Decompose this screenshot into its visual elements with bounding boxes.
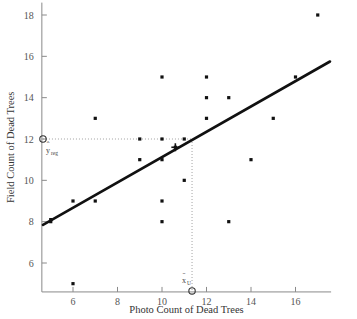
data-point [205, 96, 208, 99]
y-tick-label: 10 [24, 175, 34, 186]
data-point [249, 158, 252, 161]
y-hat-subscript: reg [51, 150, 58, 156]
data-point [294, 75, 297, 78]
scatter-plot-figure: 681012141618 6810121416 Photo Count of D… [0, 0, 357, 319]
data-point [205, 117, 208, 120]
guide-lines-group [43, 139, 192, 291]
data-point [183, 137, 186, 140]
data-point [94, 117, 97, 120]
x-bar-sub-marker [189, 288, 195, 294]
data-point [160, 220, 163, 223]
data-point [71, 282, 74, 285]
x-tick-label: 14 [246, 296, 256, 307]
y-tick-label: 12 [24, 134, 34, 145]
x-axis-title: Photo Count of Dead Trees [129, 304, 243, 315]
y-hat-reg-annotation: ˆ y reg [46, 141, 58, 157]
data-point [160, 137, 163, 140]
data-point [94, 199, 97, 202]
x-tick-label: 16 [291, 296, 301, 307]
data-point [49, 218, 52, 221]
x-bar-annotation: ̄ x U [182, 273, 191, 286]
axes-group [42, 3, 331, 292]
data-point [272, 117, 275, 120]
y-tick-label: 14 [24, 92, 34, 103]
data-point [183, 179, 186, 182]
plot-canvas: 681012141618 6810121416 Photo Count of D… [0, 0, 357, 319]
x-bar-accent: ̄ [182, 273, 186, 274]
y-axis-ticks: 681012141618 [24, 10, 47, 269]
y-axis-title: Field Count of Dead Trees [5, 92, 16, 203]
x-bar-subscript: U [187, 280, 191, 286]
x-tick-label: 6 [71, 296, 76, 307]
y-tick-label: 8 [29, 216, 34, 227]
data-point [71, 199, 74, 202]
data-point [138, 158, 141, 161]
y-hat-letter: y [46, 146, 50, 155]
data-point [205, 75, 208, 78]
regression-fit-line [43, 62, 330, 225]
data-point [227, 96, 230, 99]
x-tick-label: 8 [115, 296, 120, 307]
regression-line-group [43, 62, 330, 225]
y-tick-label: 6 [29, 258, 34, 269]
annotation-markers-group [40, 136, 195, 294]
data-point [160, 158, 163, 161]
data-point [316, 13, 319, 16]
data-point [160, 75, 163, 78]
data-point [227, 220, 230, 223]
x-bar-letter: x [182, 276, 186, 285]
data-point [138, 137, 141, 140]
y-tick-label: 16 [24, 51, 34, 62]
data-points-group [49, 13, 319, 285]
y-tick-label: 18 [24, 10, 34, 21]
data-point [160, 199, 163, 202]
